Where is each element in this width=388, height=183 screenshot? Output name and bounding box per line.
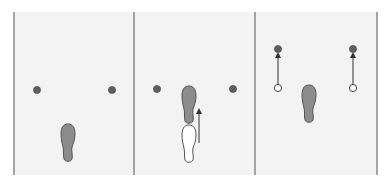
three-panel-diagram (0, 0, 388, 183)
marker-dot-icon (108, 86, 115, 93)
panel-background (14, 12, 134, 175)
marker-dot-icon (33, 86, 40, 93)
marker-dot-icon (229, 85, 236, 92)
start-marker-icon (274, 84, 281, 91)
start-marker-icon (349, 84, 356, 91)
marker-dot-icon (274, 45, 281, 52)
marker-dot-icon (153, 85, 160, 92)
marker-dot-icon (349, 45, 356, 52)
